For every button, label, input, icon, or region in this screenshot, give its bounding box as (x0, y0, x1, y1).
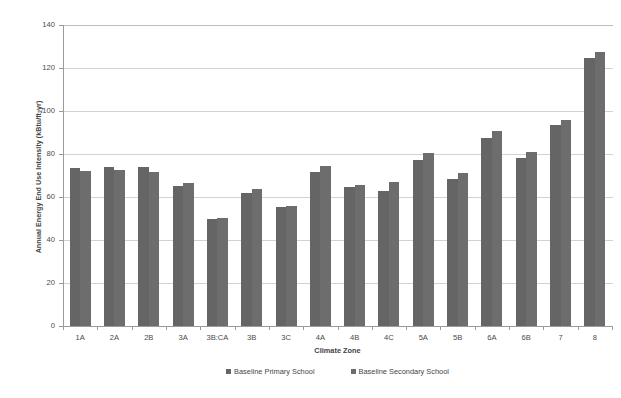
x-axis-tick-label: 6A (475, 333, 509, 342)
bar (241, 193, 252, 326)
bar (320, 166, 331, 326)
legend-item: Baseline Primary School (226, 367, 315, 376)
y-axis-tick-label: 140 (27, 21, 55, 29)
x-axis-title: Climate Zone (63, 346, 612, 355)
bar (173, 186, 184, 326)
bar (286, 206, 297, 326)
bar (276, 207, 287, 326)
bar (481, 138, 492, 326)
bar (584, 58, 595, 326)
x-axis-tick-label: 3B:CA (200, 333, 234, 342)
x-axis-tick-label: 1A (63, 333, 97, 342)
bar (492, 131, 503, 326)
legend: Baseline Primary SchoolBaseline Secondar… (63, 367, 612, 376)
x-axis-tick-mark (578, 326, 579, 330)
bar (310, 172, 321, 326)
bar (217, 218, 228, 326)
bar (104, 167, 115, 326)
x-axis-tick-label: 5A (406, 333, 440, 342)
bars-layer (63, 25, 612, 326)
x-axis-tick-label: 5B (440, 333, 474, 342)
x-axis-tick-mark (132, 326, 133, 330)
bar-chart: Annual Energy End Use Intensity (kBtu/ft… (0, 0, 621, 398)
x-axis-tick-label: 7 (543, 333, 577, 342)
x-axis-tick-mark (200, 326, 201, 330)
bar (344, 187, 355, 326)
bar (516, 158, 527, 326)
x-axis-tick-label: 2A (97, 333, 131, 342)
x-axis-tick-label: 2B (132, 333, 166, 342)
x-axis-tick-mark (440, 326, 441, 330)
x-axis-tick-label: 3A (166, 333, 200, 342)
y-axis-tick-label: 100 (27, 107, 55, 115)
bar (595, 52, 606, 326)
bar-group (241, 25, 262, 326)
bar-group (413, 25, 434, 326)
x-axis-tick-mark (269, 326, 270, 330)
bar-group (447, 25, 468, 326)
bar-group (138, 25, 159, 326)
bar (550, 125, 561, 326)
legend-swatch-icon (226, 369, 231, 374)
bar-group (584, 25, 605, 326)
bar-group (207, 25, 228, 326)
y-axis-tick-label: 40 (27, 236, 55, 244)
x-axis-tick-mark (338, 326, 339, 330)
bar (114, 170, 125, 326)
bar (458, 173, 469, 326)
y-axis-tick-label: 0 (27, 322, 55, 330)
bar (413, 160, 424, 326)
bar (389, 182, 400, 326)
x-axis-tick-label: 8 (578, 333, 612, 342)
bar-group (276, 25, 297, 326)
bar-group (70, 25, 91, 326)
x-axis-tick-mark (63, 326, 64, 330)
x-axis-tick-label: 6B (509, 333, 543, 342)
bar-group (378, 25, 399, 326)
x-axis-tick-mark (612, 326, 613, 330)
x-axis-tick-mark (543, 326, 544, 330)
legend-swatch-icon (351, 369, 356, 374)
x-axis-tick-mark (509, 326, 510, 330)
x-axis-tick-mark (166, 326, 167, 330)
y-axis-tick-label: 120 (27, 64, 55, 72)
bar (355, 185, 366, 326)
x-axis-tick-label: 4A (303, 333, 337, 342)
bar (252, 189, 263, 326)
x-axis-tick-label: 3B (235, 333, 269, 342)
y-axis-tick-label: 80 (27, 150, 55, 158)
bar-group (104, 25, 125, 326)
bar (447, 179, 458, 326)
x-axis-tick-mark (97, 326, 98, 330)
x-axis-tick-mark (303, 326, 304, 330)
bar (207, 219, 218, 326)
y-axis-tick-label: 20 (27, 279, 55, 287)
bar-group (516, 25, 537, 326)
bar (70, 168, 81, 326)
legend-label: Baseline Secondary School (359, 367, 449, 376)
bar (149, 172, 160, 326)
legend-label: Baseline Primary School (234, 367, 315, 376)
bar (183, 183, 194, 326)
bar-group (481, 25, 502, 326)
bar (80, 171, 91, 326)
bar (526, 152, 537, 326)
bar-group (344, 25, 365, 326)
x-axis-tick-mark (475, 326, 476, 330)
bar (423, 153, 434, 326)
x-axis-tick-label: 4B (338, 333, 372, 342)
bar (378, 191, 389, 326)
bar-group (173, 25, 194, 326)
y-axis-tick-label: 60 (27, 193, 55, 201)
bar-group (550, 25, 571, 326)
bar-group (310, 25, 331, 326)
legend-item: Baseline Secondary School (351, 367, 449, 376)
bar (138, 167, 149, 326)
x-axis-tick-mark (372, 326, 373, 330)
x-axis-tick-label: 3C (269, 333, 303, 342)
bar (561, 120, 572, 326)
x-axis-tick-mark (235, 326, 236, 330)
x-axis-tick-label: 4C (372, 333, 406, 342)
x-axis-tick-mark (406, 326, 407, 330)
